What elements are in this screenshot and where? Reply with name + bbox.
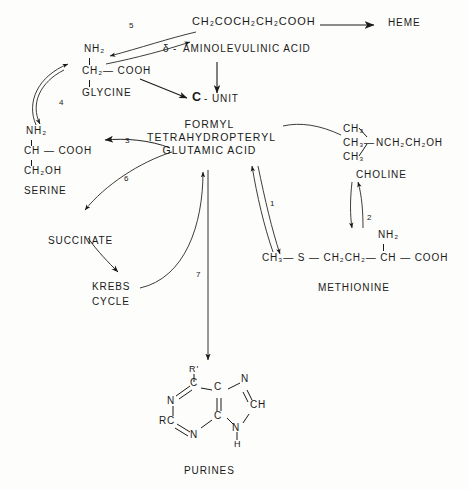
glycine-amino-group: NH₂ xyxy=(84,44,105,55)
c-unit-symbol: C xyxy=(192,91,202,104)
purine-bond-nll-cfb xyxy=(201,420,212,428)
line-choline-to-center xyxy=(283,124,341,135)
choline-bond-lines xyxy=(358,124,380,160)
glycine-backbone: CH₂— COOH xyxy=(82,66,151,77)
purine-n-upper-left: N xyxy=(167,396,175,407)
arrow-glycine-to-c-unit xyxy=(140,79,187,98)
choline-label: CHOLINE xyxy=(356,170,407,181)
ala-name: AMINOLEVULINIC ACID xyxy=(183,44,311,55)
purine-c-fusion-top: C xyxy=(214,382,222,393)
purine-bond-nur-ch-double xyxy=(243,392,248,402)
ala-name-delta: δ xyxy=(163,44,169,55)
methionine-backbone: CH₃— S — CH₂CH₂— CH — COOH xyxy=(262,253,448,264)
choline-ammonium-group: NCH₂CH₂OH xyxy=(376,138,443,149)
arrow-2-choline-to-methionine xyxy=(351,182,353,228)
serine-amino-group: NH₂ xyxy=(26,126,47,137)
ala-name-dash: - xyxy=(173,44,177,55)
serine-label: SERINE xyxy=(24,186,67,197)
ala-formula: CH₂COCH₂CH₂COOH xyxy=(192,16,315,28)
c-unit-label: - UNIT xyxy=(204,94,239,105)
purine-n-lower-right: N xyxy=(232,423,240,434)
arrow-1-methionine-to-center xyxy=(252,166,273,252)
heme-label: HEME xyxy=(388,18,421,29)
purine-n-upper-right: N xyxy=(241,374,249,385)
purines-label: PURINES xyxy=(184,466,235,477)
arrow-label-7: 7 xyxy=(196,270,200,279)
glycine-bond-nh2 xyxy=(89,58,90,65)
glycine-bond-lower xyxy=(89,80,90,87)
arrow-krebs-to-center xyxy=(140,172,203,288)
arrow-label-1: 1 xyxy=(270,199,274,208)
methionine-label: METHIONINE xyxy=(318,283,390,294)
arrow-label-2: 2 xyxy=(367,213,371,222)
purine-c-fusion-bottom: C xyxy=(214,411,222,422)
succinate-label: SUCCINATE xyxy=(48,236,113,247)
purine-c-top: C xyxy=(190,378,198,389)
formyl-thf-line-3: GLUTAMIC ACID xyxy=(147,144,272,157)
krebs-cycle-line-2: CYCLE xyxy=(92,297,130,308)
formyl-thf-line-2: TETRAHYDROPTERYL xyxy=(147,131,272,144)
pathway-diagram-canvas: CH₂COCH₂CH₂COOH HEME δ - AMINOLEVULINIC … xyxy=(0,0,469,490)
glycine-label: GLYCINE xyxy=(82,88,131,99)
arrow-label-3: 3 xyxy=(125,136,129,145)
methionine-amino-group: NH₂ xyxy=(378,230,399,241)
purine-bond-ch-nlr xyxy=(243,414,249,423)
serine-backbone: CH — COOH xyxy=(24,146,92,157)
arrow-label-4: 4 xyxy=(59,98,63,107)
purine-h-bottom: H xyxy=(234,440,241,449)
arrow-label-6: 6 xyxy=(124,174,128,183)
purine-bond-cft-nur xyxy=(228,383,240,389)
arrow-4-serine-to-glycine xyxy=(33,64,68,125)
purine-r-prime: R' xyxy=(189,365,199,374)
purine-bond-cft-ctop xyxy=(201,388,212,390)
purine-ch-right: CH xyxy=(250,400,266,411)
krebs-cycle-line-1: KREBS xyxy=(92,282,130,293)
arrow-6-center-to-succinate xyxy=(85,152,172,210)
purine-bond-ctop-nul-double xyxy=(179,390,192,399)
arrow-4-glycine-to-serine xyxy=(36,70,64,124)
purine-bond-ctop-nul xyxy=(176,386,190,396)
methionine-bond-nh2 xyxy=(383,244,384,251)
formyl-thf-line-1: FORMYL xyxy=(147,118,272,131)
serine-hydroxymethyl: CH₂OH xyxy=(24,166,62,177)
purine-n-lower-left: N xyxy=(190,430,198,441)
arrow-label-5: 5 xyxy=(129,21,133,30)
arrow-2-methionine-to-choline xyxy=(358,182,363,228)
purine-rc-left: RC xyxy=(159,416,175,427)
